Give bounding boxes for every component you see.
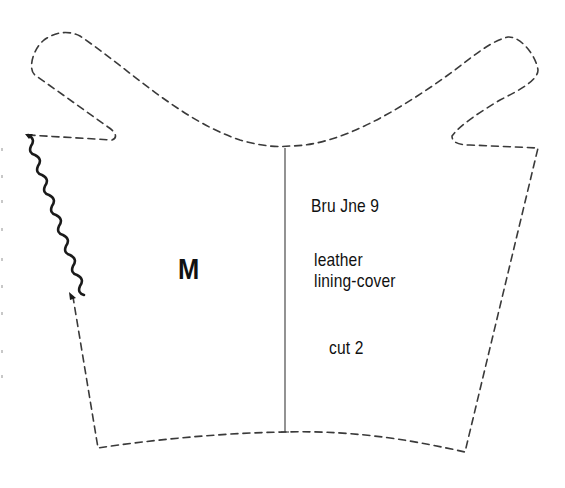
material-label: leather [314,249,363,271]
scan-artifact [1,350,3,353]
piece-letter: M [178,252,199,286]
scan-artifact [1,228,3,231]
scan-artifact [1,285,3,288]
scan-artifact [1,258,3,261]
scan-artifact [1,375,3,378]
scallop-end-marker [69,292,76,300]
scan-artifact [1,148,3,151]
scan-artifact [1,200,3,203]
pattern-outline [0,0,565,488]
cut-instruction: cut 2 [329,337,364,359]
pattern-code: Bru Jne 9 [311,195,379,217]
scan-artifact [1,175,3,178]
scan-artifact [1,312,3,315]
scalloped-edge [28,135,84,295]
cutting-line [28,33,538,452]
material-purpose-label: lining-cover [314,270,396,292]
